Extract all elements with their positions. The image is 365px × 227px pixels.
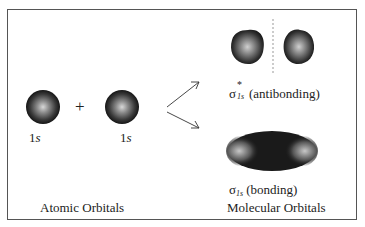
arrows (167, 82, 199, 128)
antibonding-label: σ*1s(antibonding) (229, 86, 320, 102)
molecular-orbitals-caption: Molecular Orbitals (227, 200, 326, 216)
plus-sign: + (75, 97, 85, 117)
atomic-orbital-left-label: 1s (29, 130, 41, 146)
atomic-orbitals-caption: Atomic Orbitals (40, 200, 124, 216)
bonding-label: σ1s(bonding) (229, 182, 297, 198)
arrow-up-icon (167, 82, 199, 107)
atomic-orbital-right-label: 1s (120, 130, 132, 146)
antibonding-lobe-right (284, 30, 314, 64)
arrow-down-icon (167, 112, 199, 128)
antibonding-lobe-left (231, 30, 264, 64)
atomic-orbital-right (105, 90, 139, 124)
orbital-graphics (0, 0, 365, 227)
atomic-orbital-left (26, 90, 60, 124)
